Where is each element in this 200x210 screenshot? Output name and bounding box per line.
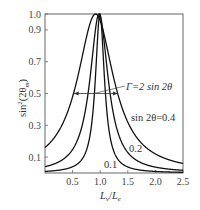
y-tick-label: 0.9 bbox=[29, 24, 42, 35]
x-tick-label: 2.0 bbox=[149, 176, 162, 187]
curve-label-0.2: 0.2 bbox=[129, 143, 142, 154]
curve-label-0.4: sin 2θ=0.4 bbox=[131, 112, 176, 123]
x-tick-label: 1.0 bbox=[94, 176, 107, 187]
x-tick-label: 0.5 bbox=[66, 176, 79, 187]
svg-text:Lv/Le: Lv/Le bbox=[99, 190, 121, 203]
gamma-label: Γ=2 sin 2θ bbox=[125, 81, 172, 92]
curve-label-0.1: 0.1 bbox=[104, 159, 117, 170]
x-tick-label: 1.5 bbox=[122, 176, 135, 187]
x-axis-label: Lv/Le bbox=[99, 190, 121, 203]
y-tick-label: 0.7 bbox=[29, 56, 42, 67]
y-tick-label: 0.3 bbox=[29, 120, 42, 131]
resonance-chart: 0.51.01.52.02.50.10.30.50.70.91.0 Γ=2 si… bbox=[0, 0, 200, 210]
y-tick-label: 0.5 bbox=[29, 88, 42, 99]
x-tick-label: 2.5 bbox=[177, 176, 190, 187]
y-tick-label: 1.0 bbox=[29, 9, 42, 20]
y-tick-label: 0.1 bbox=[29, 152, 42, 163]
